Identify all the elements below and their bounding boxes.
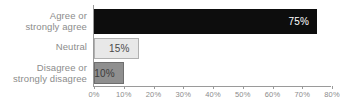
x-tick-mark [124,86,125,89]
bar-agree: 75% [94,9,317,34]
x-tick-mark [332,86,333,89]
bar-neutral: 15% [94,38,139,59]
category-label-neutral: Neutral [0,41,87,52]
x-tick-label: 60% [265,90,280,99]
x-tick-label: 30% [176,90,191,99]
x-tick-label: 70% [295,90,310,99]
x-tick-mark [213,86,214,89]
bar-value-disagree: 10% [94,68,123,79]
x-axis-line [93,86,331,87]
bar-value-neutral: 15% [109,43,138,54]
category-axis-labels: Agree or strongly agree Neutral Disagree… [0,0,90,86]
x-tick-mark [273,86,274,89]
x-tick-mark [183,86,184,89]
x-tick-label: 0% [88,90,99,99]
x-tick-mark [154,86,155,89]
x-tick-mark [302,86,303,89]
plot-area: 75% 15% 10% 0%10%20%30%40%50%60%70%80% [93,5,331,86]
category-label-agree: Agree or strongly agree [0,10,87,32]
x-tick-mark [94,86,95,89]
x-tick-label: 80% [324,90,339,99]
bar-value-agree: 75% [289,16,318,27]
x-tick-label: 40% [205,90,220,99]
bar-disagree: 10% [94,62,124,84]
x-tick-mark [243,86,244,89]
category-label-disagree: Disagree or strongly disagree [0,62,87,84]
x-tick-label: 20% [146,90,161,99]
x-tick-label: 50% [235,90,250,99]
x-tick-label: 10% [116,90,131,99]
